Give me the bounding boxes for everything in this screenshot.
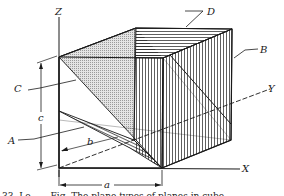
dimension-b-label: b — [87, 136, 93, 147]
dimension-a-label: a — [104, 179, 110, 190]
x-axis-label: X — [241, 163, 250, 174]
dimension-c-label: c — [38, 112, 44, 123]
plane-b-label: B — [259, 44, 267, 55]
caption-fragment: 33. Lo . . . Fig. The plane types of pla… — [2, 191, 224, 196]
z-axis-label: Z — [54, 6, 63, 17]
plane-c-label: C — [14, 83, 22, 94]
dimension-a-arrow-right — [155, 183, 161, 187]
dimension-a-arrow-left — [60, 183, 66, 187]
x-axis — [59, 168, 240, 169]
leader-d — [185, 11, 203, 27]
cube-plane-diagram: Z X Y D B C A c b a 33. Lo . . . Fig. Th… — [0, 0, 284, 196]
plane-d-label: D — [206, 6, 215, 17]
dimension-c-ext-top — [37, 56, 57, 63]
plane-a-label: A — [7, 135, 15, 146]
dimension-c-ext-bottom — [37, 165, 57, 170]
leader-b — [234, 49, 258, 58]
dimension-c-arrow-top — [39, 63, 43, 69]
dimension-c-arrow-bottom — [39, 162, 43, 168]
y-axis-label: Y — [268, 83, 276, 94]
